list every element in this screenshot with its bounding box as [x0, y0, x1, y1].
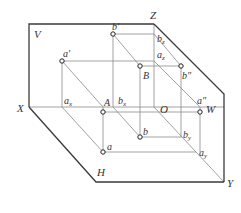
plane-frame: [29, 24, 224, 182]
label-origin-O: O: [160, 103, 168, 115]
point-a-double-prime: [198, 110, 202, 114]
construction-lines: [29, 24, 224, 182]
label-b-z: bz: [157, 33, 165, 46]
label-a-z: az: [157, 49, 165, 62]
label-axis-Z: Z: [150, 9, 157, 21]
label-plane-H: H: [96, 166, 106, 178]
label-plane-V: V: [34, 28, 42, 40]
label-a: a: [107, 141, 112, 152]
label-b: b: [143, 126, 148, 137]
label-axis-Y: Y: [227, 177, 235, 189]
point-a-prime: [60, 59, 64, 63]
az-to-a-dprime: [154, 61, 200, 107]
label-plane-W: W: [206, 103, 216, 115]
h-plane-border: [29, 107, 224, 182]
label-a-prime: a': [63, 48, 71, 59]
label-a-y: ay: [199, 147, 208, 160]
point-b-double-prime: [179, 64, 183, 68]
label-a-double-prime: a": [197, 95, 207, 106]
oy-axis: [154, 107, 224, 182]
bx-to-b: [113, 107, 140, 137]
label-B: B: [143, 70, 149, 81]
point-a: [101, 150, 105, 154]
ax-to-a: [62, 107, 103, 152]
projection-diagram: V W H X Y Z O a' b' A B a" b" a b ax bx …: [0, 0, 241, 213]
label-axis-X: X: [16, 102, 25, 114]
label-b-double-prime: b": [182, 70, 192, 81]
label-b-prime: b': [112, 21, 120, 32]
point-B: [138, 64, 142, 68]
label-A: A: [103, 97, 111, 108]
point-b: [138, 135, 142, 139]
point-A: [101, 110, 105, 114]
point-b-prime: [111, 32, 115, 36]
label-b-x: bx: [118, 95, 127, 108]
label-a-x: ax: [64, 95, 73, 108]
